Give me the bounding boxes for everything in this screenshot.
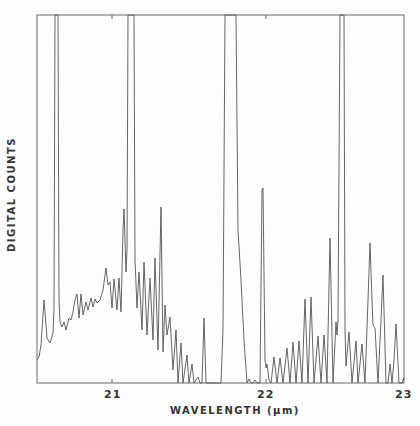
plot-frame <box>37 15 404 383</box>
x-tick-label-23: 23 <box>395 388 412 401</box>
spectrum-figure: 21 22 23 WAVELENGTH (μm) DIGITAL COUNTS <box>0 0 420 426</box>
y-axis-label: DIGITAL COUNTS <box>6 137 17 252</box>
plot-canvas <box>0 0 420 426</box>
x-tick-label-21: 21 <box>104 388 121 401</box>
x-axis-label: WAVELENGTH (μm) <box>170 405 300 416</box>
x-tick-label-22: 22 <box>257 388 274 401</box>
spectrum-line <box>37 15 404 383</box>
